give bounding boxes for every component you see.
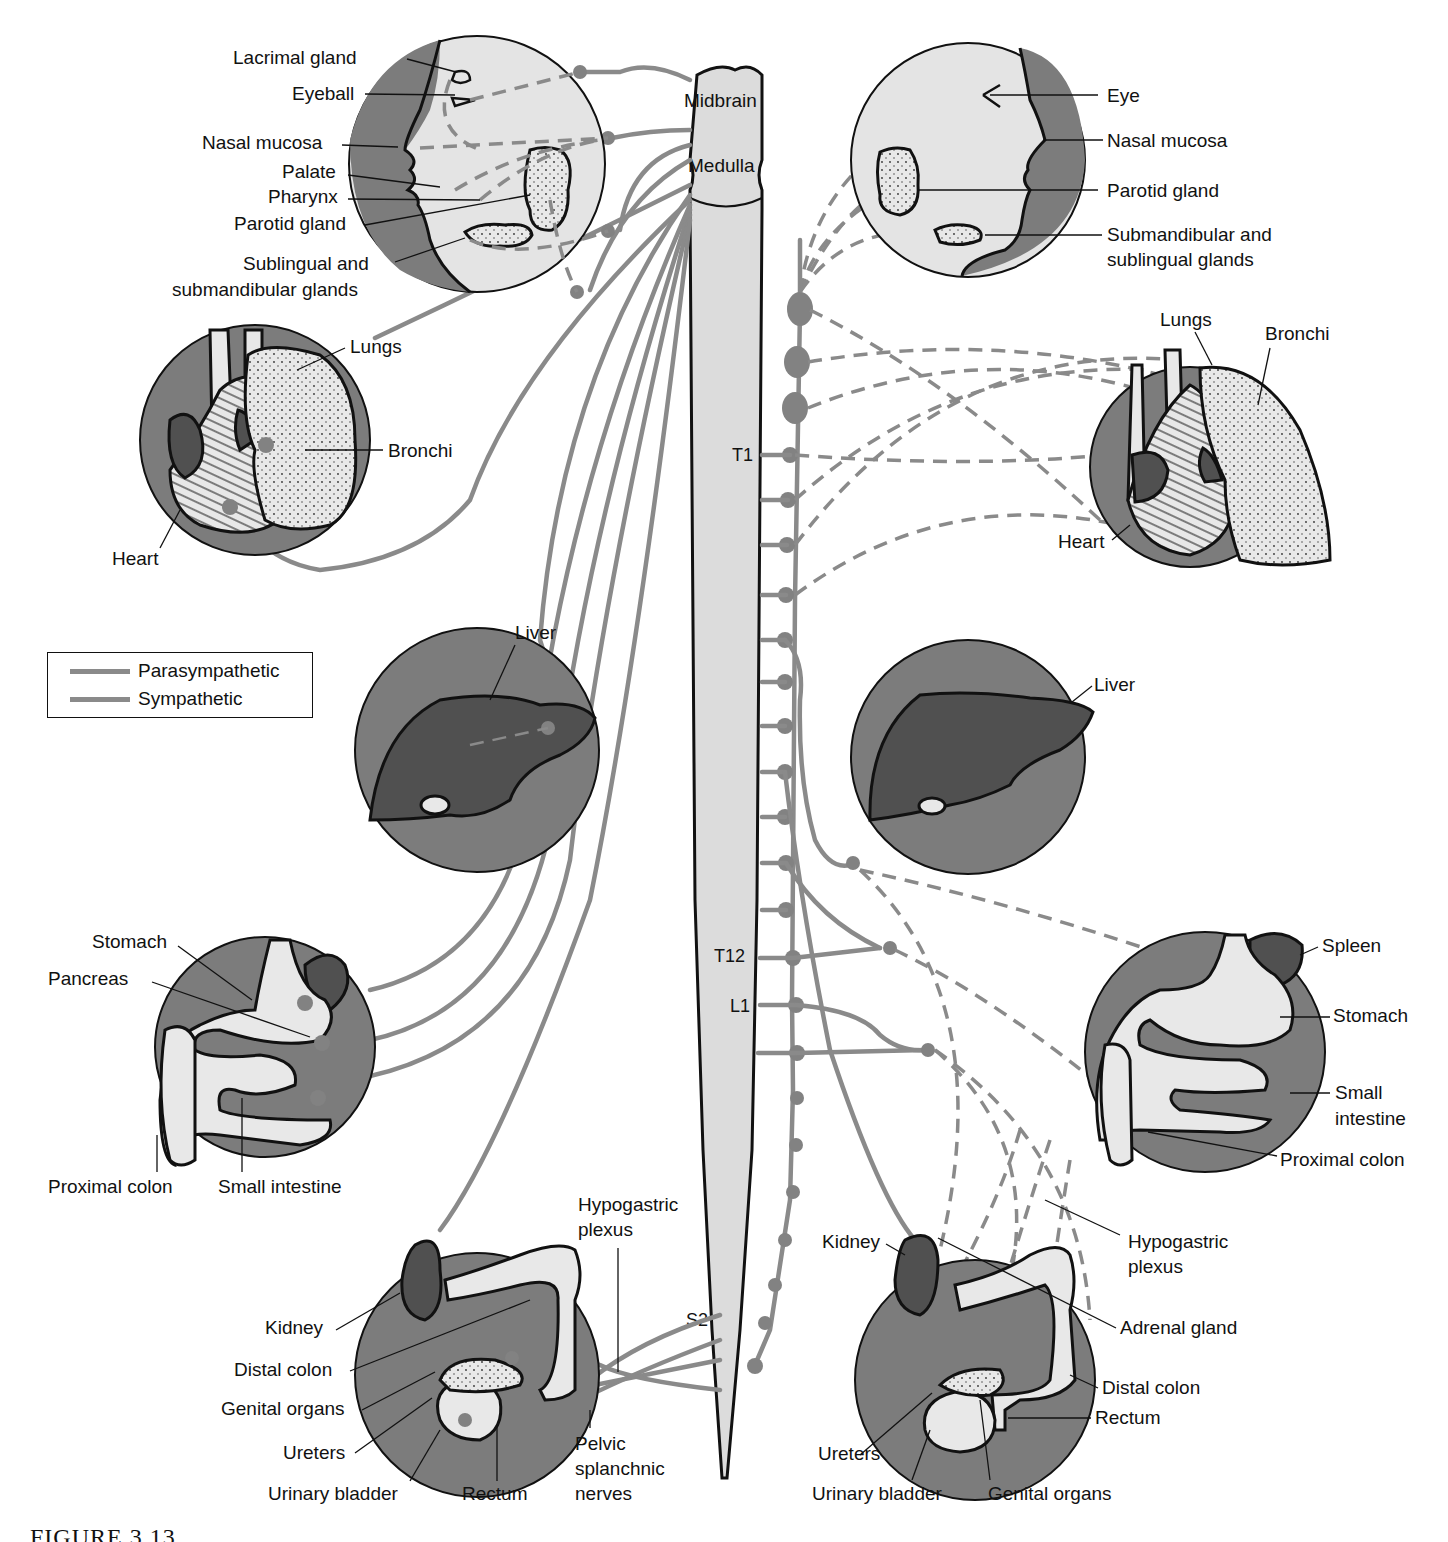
adrenal-gland-label: Adrenal gland [1120, 1317, 1237, 1338]
hypogastric-left-label-1: Hypogastric [578, 1194, 678, 1215]
left-liver-disc [355, 628, 599, 872]
left-pelvis-disc [355, 1241, 599, 1497]
submandibular-label-1: Submandibular and [1107, 224, 1272, 245]
palate-label: Palate [282, 161, 336, 182]
pharynx-label: Pharynx [268, 186, 338, 207]
nasal-mucosa-label: Nasal mucosa [202, 132, 323, 153]
urinary-bladder-right-label: Urinary bladder [812, 1483, 943, 1504]
legend-item-sympathetic: Sympathetic [70, 688, 243, 710]
genital-organs-right-label: Genital organs [988, 1483, 1112, 1504]
bronchi-left-label: Bronchi [388, 440, 452, 461]
heart-right-label: Heart [1058, 531, 1105, 552]
t1-label: T1 [732, 445, 753, 465]
parotid-gland-right-label: Parotid gland [1107, 180, 1219, 201]
pelvic-splanchnic-label-1: Pelvic [575, 1433, 626, 1454]
t12-label: T12 [714, 946, 745, 966]
kidney-right-label: Kidney [822, 1231, 881, 1252]
lungs-left-label: Lungs [350, 336, 402, 357]
spinal-cord: Midbrain Medulla T1 T12 L1 S2 [684, 67, 762, 1478]
right-liver-labels: Liver [1072, 674, 1136, 702]
parasympathetic-line-swatch [70, 669, 130, 674]
genital-organs-left-label: Genital organs [221, 1398, 345, 1419]
proximal-colon-right-label: Proximal colon [1280, 1149, 1405, 1170]
right-liver-disc [851, 640, 1093, 874]
figure-caption: FIGURE 3.13 [30, 1524, 176, 1542]
urinary-bladder-left-label: Urinary bladder [268, 1483, 399, 1504]
nasal-mucosa-right-label: Nasal mucosa [1107, 130, 1228, 151]
pelvic-splanchnic-label-2: splanchnic [575, 1458, 665, 1479]
pancreas-label: Pancreas [48, 968, 128, 989]
sublingual-label-2: submandibular glands [172, 279, 358, 300]
legend-item-parasympathetic: Parasympathetic [70, 660, 280, 682]
right-thorax-disc [1090, 350, 1330, 567]
l1-label: L1 [730, 996, 750, 1016]
small-intestine-right-label-1: Small [1335, 1082, 1383, 1103]
stomach-left-label: Stomach [92, 931, 167, 952]
legend-label-sympathetic: Sympathetic [138, 688, 243, 710]
proximal-colon-left-label: Proximal colon [48, 1176, 173, 1197]
lungs-right-label: Lungs [1160, 309, 1212, 330]
legend: Parasympathetic Sympathetic [47, 652, 313, 718]
distal-colon-right-label: Distal colon [1102, 1377, 1200, 1398]
hypogastric-right-label-2: plexus [1128, 1256, 1183, 1277]
midbrain-label: Midbrain [684, 90, 757, 111]
right-abdomen-disc [1085, 932, 1325, 1172]
left-abdomen-disc [155, 937, 375, 1165]
legend-label-parasympathetic: Parasympathetic [138, 660, 280, 682]
autonomic-nervous-system-diagram: Midbrain Medulla T1 T12 L1 S2 [0, 0, 1448, 1542]
ureters-left-label: Ureters [283, 1442, 345, 1463]
spleen-label: Spleen [1322, 935, 1381, 956]
kidney-left-label: Kidney [265, 1317, 324, 1338]
submandibular-label-2: sublingual glands [1107, 249, 1254, 270]
stomach-right-label: Stomach [1333, 1005, 1408, 1026]
right-head-disc [851, 43, 1085, 277]
hypogastric-right-label-1: Hypogastric [1128, 1231, 1228, 1252]
right-pelvis-disc [855, 1236, 1095, 1501]
sublingual-label-1: Sublingual and [243, 253, 369, 274]
liver-left-label: Liver [515, 622, 557, 643]
medulla-label: Medulla [688, 155, 755, 176]
heart-left-label: Heart [112, 548, 159, 569]
left-head-disc [349, 36, 608, 292]
rectum-right-label: Rectum [1095, 1407, 1160, 1428]
rectum-left-label: Rectum [462, 1483, 527, 1504]
small-intestine-left-label: Small intestine [218, 1176, 342, 1197]
eyeball-label: Eyeball [292, 83, 354, 104]
liver-right-label: Liver [1094, 674, 1136, 695]
parotid-gland-label: Parotid gland [234, 213, 346, 234]
lacrimal-gland-label: Lacrimal gland [233, 47, 357, 68]
sympathetic-line-swatch [70, 697, 130, 702]
hypogastric-left-label-2: plexus [578, 1219, 633, 1240]
eye-label: Eye [1107, 85, 1140, 106]
small-intestine-right-label-2: intestine [1335, 1108, 1406, 1129]
pelvic-splanchnic-label-3: nerves [575, 1483, 632, 1504]
bronchi-right-label: Bronchi [1265, 323, 1329, 344]
distal-colon-left-label: Distal colon [234, 1359, 332, 1380]
